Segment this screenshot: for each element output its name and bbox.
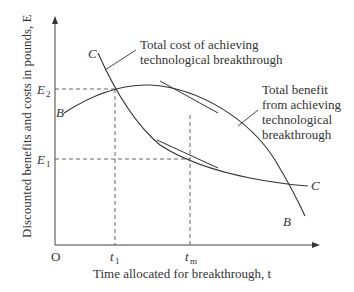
benefit-annotation-line1: Total benefit [262, 82, 328, 97]
origin-label: O [51, 249, 60, 264]
cost-annotation-line1: Total cost of achieving [140, 37, 259, 52]
benefit-tangent [160, 81, 218, 113]
benefit-annotation-line4: breakthrough [262, 127, 332, 142]
guide-lines [55, 89, 190, 245]
t1-subscript: 1 [115, 256, 120, 266]
cost-tangent [157, 140, 218, 168]
e2-label: E [36, 82, 45, 97]
cost-annotation-leader [105, 50, 136, 70]
benefit-annotation-leader [238, 110, 258, 126]
x-axis-arrow-icon [312, 242, 320, 248]
x-axis-title: Time allocated for breakthrough, t [93, 266, 272, 281]
t1-label: t [110, 249, 114, 264]
tm-label: t [185, 249, 189, 264]
benefit-annotation-line3: technological [262, 112, 332, 127]
e2-subscript: 2 [46, 89, 51, 99]
diagram-canvas: C C B B Total cost of achieving technolo… [0, 0, 354, 292]
tm-subscript: m [190, 256, 197, 266]
e1-subscript: 1 [46, 159, 51, 169]
cost-start-label: C [88, 46, 97, 61]
y-axis-title: Discounted benefits and costs in pounds,… [19, 14, 34, 238]
e1-label: E [36, 152, 45, 167]
benefit-start-label: B [56, 105, 64, 120]
benefit-end-label: B [283, 214, 291, 229]
benefit-annotation-line2: from achieving [262, 97, 342, 112]
y-axis-arrow-icon [52, 16, 58, 24]
cost-annotation-line2: technological breakthrough [140, 52, 283, 67]
cost-end-label: C [311, 178, 320, 193]
